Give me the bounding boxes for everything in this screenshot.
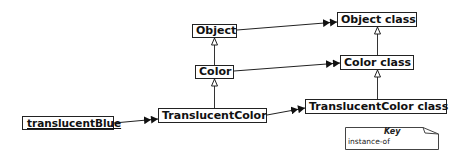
- node-translucent-color: TranslucentColor: [158, 108, 267, 123]
- inherit-arrowhead-icon: [375, 70, 381, 77]
- node-label: Color: [199, 65, 231, 78]
- node-translucent-color-class: TranslucentColor class: [305, 99, 447, 114]
- node-color-class: Color class: [340, 55, 414, 70]
- edge-color-instance-of-color-class: [234, 63, 340, 71]
- node-translucent-blue-instance: translucentBlue: [22, 116, 114, 130]
- node-label: TranslucentColor: [162, 109, 267, 122]
- inherit-arrowhead-icon: [375, 27, 381, 34]
- inherit-arrowhead-icon: [212, 38, 218, 45]
- node-label: Object class: [341, 13, 416, 26]
- node-object-class: Object class: [337, 12, 417, 27]
- key-entry-instance-of: instance-of: [348, 137, 390, 146]
- node-color: Color: [195, 65, 234, 79]
- edge-object-instance-of-object-class: [237, 22, 337, 30]
- inherit-arrowhead-icon: [212, 79, 218, 86]
- node-label: Object: [196, 24, 236, 37]
- key-title: Key: [384, 127, 400, 136]
- instance-of-edges: [114, 22, 432, 142]
- node-label: Color class: [344, 56, 411, 69]
- edge-translucentcolor-instance-of-class: [267, 108, 305, 115]
- node-label: translucentBlue: [27, 117, 121, 129]
- node-object: Object: [192, 24, 237, 38]
- node-label: TranslucentColor class: [309, 100, 448, 113]
